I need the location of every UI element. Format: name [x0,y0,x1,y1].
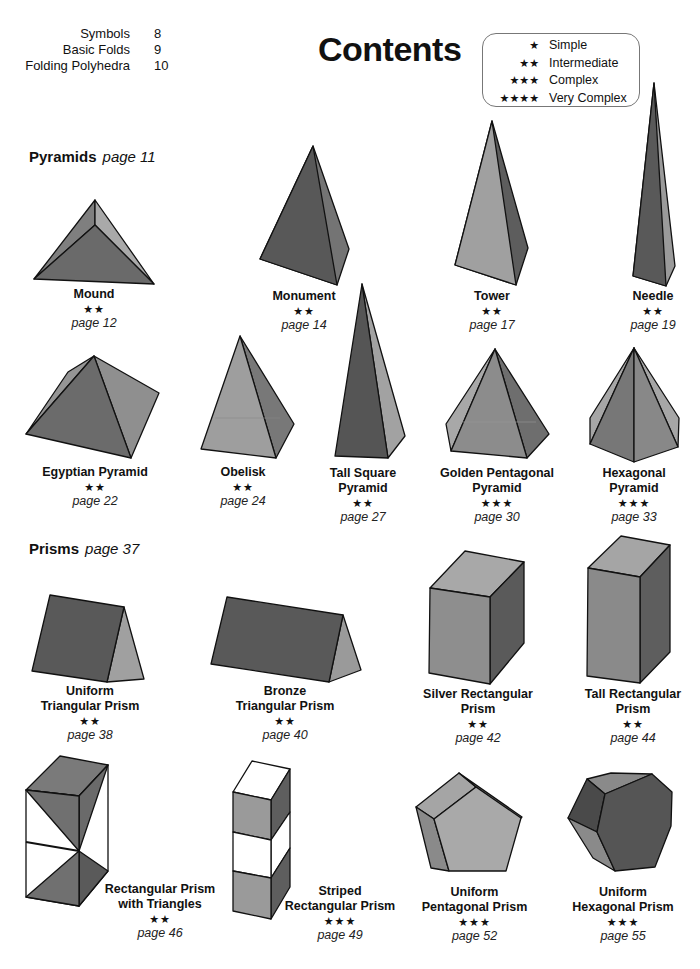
difficulty-stars: ★★★ [568,915,678,929]
model-name: Hexagonal Prism [568,900,678,915]
model-name: Uniform [568,885,678,900]
model-page: page 55 [568,929,678,944]
model-uniform-hexagonal-prism[interactable]: Uniform Hexagonal Prism ★★★ page 55 [568,885,678,944]
uniform-hexagonal-prism-illustration [0,0,700,969]
